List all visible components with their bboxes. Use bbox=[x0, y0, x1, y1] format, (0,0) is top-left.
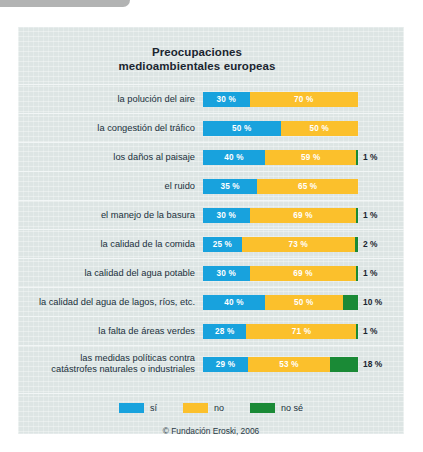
chart-row: el manejo de la basura30 %69 %1 % bbox=[18, 200, 404, 229]
bar-segment-value: 29 % bbox=[216, 360, 235, 369]
bar-segment-value: 30 % bbox=[217, 269, 236, 278]
bar-segment-no-se bbox=[356, 150, 358, 165]
row-label-line-2: catástrofes naturales o industriales bbox=[18, 364, 195, 375]
row-label: la calidad de la comida bbox=[18, 239, 203, 250]
chart-title-line-2: medioambientales europeas bbox=[18, 59, 376, 73]
bar-outside-value: 1 % bbox=[363, 268, 377, 278]
chart-row: la calidad de la comida25 %73 %2 % bbox=[18, 229, 404, 258]
bar-segment-no-se bbox=[356, 208, 358, 223]
legend-item: no bbox=[183, 403, 224, 413]
legend-item: sí bbox=[119, 403, 157, 413]
row-label-line-1: la calidad de la comida bbox=[100, 239, 195, 249]
chart-row: las medidas políticas contracatástrofes … bbox=[18, 345, 404, 382]
bar-segment-no-se bbox=[355, 237, 358, 252]
row-label-line-1: el ruido bbox=[165, 181, 196, 191]
chart-row: la polución del aire30 %70 % bbox=[18, 84, 404, 113]
bar-segment-no-se bbox=[356, 324, 358, 339]
bar-outside-value: 1 % bbox=[363, 326, 377, 336]
chart-row: la falta de áreas verdes28 %71 %1 % bbox=[18, 316, 404, 345]
stacked-bar: 50 %50 % bbox=[203, 121, 358, 136]
stacked-bar: 25 %73 %2 % bbox=[203, 237, 358, 252]
row-label-line-1: los daños al paisaje bbox=[113, 152, 195, 162]
bar-segment-value: 40 % bbox=[224, 298, 243, 307]
bar-outside-value: 18 % bbox=[363, 359, 382, 369]
chart-rows: la polución del aire30 %70 %la congestió… bbox=[18, 84, 404, 382]
bar-segment-value: 50 % bbox=[310, 124, 329, 133]
bar-segment-no: 71 % bbox=[246, 324, 356, 339]
bar-segment-value: 28 % bbox=[215, 327, 234, 336]
bar-segment-no: 50 % bbox=[281, 121, 359, 136]
row-label-line-1: la congestión del tráfico bbox=[97, 123, 195, 133]
bar-segment-si: 50 % bbox=[203, 121, 281, 136]
bar-segment-value: 65 % bbox=[298, 182, 317, 191]
row-label: los daños al paisaje bbox=[18, 152, 203, 163]
row-label: la falta de áreas verdes bbox=[18, 326, 203, 337]
chart-title-line-1: Preocupaciones bbox=[18, 45, 376, 59]
bar-segment-no: 69 % bbox=[250, 266, 357, 281]
bar-segment-si: 29 % bbox=[203, 357, 248, 372]
bar-segment-si: 28 % bbox=[203, 324, 246, 339]
bar-segment-no: 73 % bbox=[242, 237, 355, 252]
chart-row: la congestión del tráfico50 %50 % bbox=[18, 113, 404, 142]
legend-swatch-icon bbox=[119, 403, 144, 413]
bar-segment-value: 69 % bbox=[293, 269, 312, 278]
legend-label: no bbox=[214, 403, 224, 413]
chart-title: Preocupaciones medioambientales europeas bbox=[18, 45, 376, 73]
bar-outside-value: 2 % bbox=[363, 239, 377, 249]
row-label: las medidas políticas contracatástrofes … bbox=[18, 353, 203, 375]
bar-segment-value: 30 % bbox=[217, 95, 236, 104]
bar-segment-si: 25 % bbox=[203, 237, 242, 252]
row-label-line-1: las medidas políticas contra bbox=[80, 353, 195, 363]
bar-segment-si: 30 % bbox=[203, 266, 250, 281]
stacked-bar: 35 %65 % bbox=[203, 179, 358, 194]
stacked-bar: 28 %71 %1 % bbox=[203, 324, 358, 339]
bar-segment-value: 30 % bbox=[217, 211, 236, 220]
row-label: la calidad del agua de lagos, ríos, etc. bbox=[18, 297, 203, 308]
chart-row: la calidad del agua de lagos, ríos, etc.… bbox=[18, 287, 404, 316]
row-label-line-1: la calidad del agua de lagos, ríos, etc. bbox=[39, 297, 195, 307]
row-label-line-1: la calidad del agua potable bbox=[84, 268, 195, 278]
legend-swatch-icon bbox=[183, 403, 208, 413]
bar-segment-si: 40 % bbox=[203, 295, 265, 310]
bar-segment-no: 53 % bbox=[248, 357, 330, 372]
bar-segment-value: 40 % bbox=[224, 153, 243, 162]
stacked-bar: 29 %53 %18 % bbox=[203, 357, 358, 372]
bar-segment-no: 70 % bbox=[250, 92, 359, 107]
bar-segment-value: 71 % bbox=[292, 327, 311, 336]
legend-label: sí bbox=[150, 403, 157, 413]
stacked-bar: 40 %59 %1 % bbox=[203, 150, 358, 165]
bar-segment-value: 70 % bbox=[294, 95, 313, 104]
bar-segment-value: 73 % bbox=[289, 240, 308, 249]
row-label-line-1: el manejo de la basura bbox=[101, 210, 195, 220]
stacked-bar: 30 %70 % bbox=[203, 92, 358, 107]
row-label-line-1: la falta de áreas verdes bbox=[98, 326, 195, 336]
chart-row: los daños al paisaje40 %59 %1 % bbox=[18, 142, 404, 171]
bar-segment-si: 40 % bbox=[203, 150, 265, 165]
bar-segment-value: 59 % bbox=[301, 153, 320, 162]
stacked-bar: 40 %50 %10 % bbox=[203, 295, 358, 310]
legend-label: no sé bbox=[281, 403, 303, 413]
bar-segment-no: 50 % bbox=[265, 295, 343, 310]
bar-segment-no-se bbox=[356, 266, 358, 281]
bar-segment-si: 30 % bbox=[203, 92, 250, 107]
bar-segment-value: 25 % bbox=[213, 240, 232, 249]
row-label: la calidad del agua potable bbox=[18, 268, 203, 279]
decorative-top-tab bbox=[0, 0, 130, 7]
row-label: el manejo de la basura bbox=[18, 210, 203, 221]
stacked-bar: 30 %69 %1 % bbox=[203, 266, 358, 281]
bar-segment-no: 65 % bbox=[257, 179, 358, 194]
bar-segment-no-se bbox=[330, 357, 358, 372]
chart-credit: © Fundación Eroski, 2006 bbox=[18, 426, 404, 436]
bar-segment-no: 59 % bbox=[265, 150, 356, 165]
bar-segment-si: 35 % bbox=[203, 179, 257, 194]
bar-outside-value: 1 % bbox=[363, 152, 377, 162]
row-label: el ruido bbox=[18, 181, 203, 192]
bar-segment-value: 50 % bbox=[294, 298, 313, 307]
bar-outside-value: 10 % bbox=[363, 297, 382, 307]
stacked-bar: 30 %69 %1 % bbox=[203, 208, 358, 223]
row-label-line-1: la polución del aire bbox=[117, 94, 195, 104]
legend-item: no sé bbox=[250, 403, 303, 413]
bar-outside-value: 1 % bbox=[363, 210, 377, 220]
bar-segment-no-se bbox=[343, 295, 359, 310]
chart-row: el ruido35 %65 % bbox=[18, 171, 404, 200]
